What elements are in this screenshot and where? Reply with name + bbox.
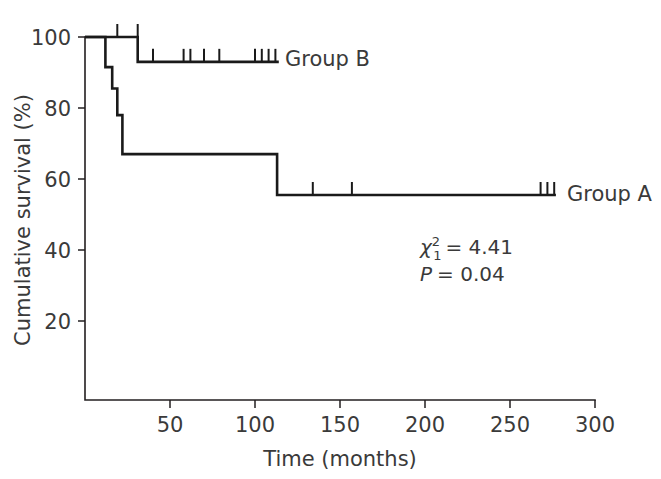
y-axis-tick-labels: 100 80 60 40 20 [31,26,71,334]
statistics-annotation: χ21= 4.41 P= 0.04 [419,234,513,286]
y-tick-label-20: 20 [44,310,71,334]
x-axis-tick-labels: 50 100 150 200 250 300 [157,413,615,437]
y-axis-title: Cumulative survival (%) [11,94,35,346]
x-tick-label-100: 100 [235,413,275,437]
kaplan-meier-chart: 100 80 60 40 20 Cumulative survival (%) … [0,0,661,479]
y-tick-label-40: 40 [44,239,71,263]
x-tick-label-50: 50 [157,413,184,437]
chi-superscript: 2 [432,234,440,249]
y-axis-ticks [78,37,85,321]
p-value: = 0.04 [437,262,505,286]
curve-group-b [85,37,279,62]
x-axis-title: Time (months) [262,447,417,471]
x-tick-label-250: 250 [490,413,530,437]
chi-subscript: 1 [433,248,441,263]
y-tick-label-60: 60 [44,168,71,192]
x-tick-label-200: 200 [405,413,445,437]
series-label-group-b: Group B [285,47,370,71]
y-tick-label-100: 100 [31,26,71,50]
x-tick-label-300: 300 [575,413,615,437]
x-tick-label-150: 150 [320,413,360,437]
plot-axes [85,37,595,400]
y-tick-label-80: 80 [44,97,71,121]
survival-plot-svg: 100 80 60 40 20 Cumulative survival (%) … [0,0,661,479]
chi-value: = 4.41 [445,235,513,259]
p-symbol: P [420,262,433,286]
series-label-group-a: Group A [567,182,653,206]
x-axis-ticks [170,400,595,408]
chi-square-annotation: χ21= 4.41 [419,234,513,263]
p-value-annotation: P= 0.04 [420,262,505,286]
